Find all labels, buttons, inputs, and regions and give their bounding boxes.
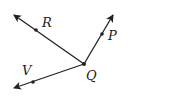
ray-label-r: R	[41, 15, 52, 30]
point-r	[34, 28, 38, 32]
ray-diagram: Q R P V	[0, 0, 180, 103]
ray-label-p: P	[107, 28, 117, 43]
point-p	[100, 32, 104, 36]
diagram-svg: Q R P V	[0, 0, 180, 103]
point-v	[31, 80, 35, 84]
point-q	[82, 62, 86, 66]
vertex-label-q: Q	[86, 68, 97, 83]
ray-label-v: V	[22, 63, 33, 78]
